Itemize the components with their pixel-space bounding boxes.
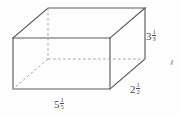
prism-drawing bbox=[0, 0, 181, 117]
width-whole: 5 bbox=[54, 99, 60, 110]
width-fraction: 15 bbox=[60, 97, 64, 112]
height-denominator: 3 bbox=[152, 36, 156, 43]
rectangular-prism-figure: 313 212 515 bbox=[0, 0, 181, 117]
hidden-edges bbox=[13, 8, 145, 89]
depth-mixed-number: 212 bbox=[130, 82, 140, 97]
hidden-edge-oblique bbox=[13, 59, 48, 89]
top-face-edges bbox=[13, 8, 145, 38]
width-denominator: 5 bbox=[60, 104, 64, 111]
front-face-edges bbox=[13, 38, 110, 89]
width-label: 515 bbox=[54, 97, 64, 112]
height-mixed-number: 313 bbox=[146, 29, 156, 44]
right-face-edges bbox=[110, 8, 145, 89]
visible-edges bbox=[13, 8, 145, 89]
depth-fraction: 12 bbox=[136, 82, 140, 97]
height-label: 313 bbox=[146, 29, 156, 44]
depth-whole: 2 bbox=[130, 84, 136, 95]
height-fraction: 13 bbox=[152, 29, 156, 44]
height-whole: 3 bbox=[146, 31, 152, 42]
depth-denominator: 2 bbox=[136, 89, 140, 96]
width-mixed-number: 515 bbox=[54, 97, 64, 112]
depth-label: 212 bbox=[130, 82, 140, 97]
